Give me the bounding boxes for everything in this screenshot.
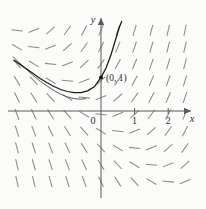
- slope-segment: [129, 129, 140, 133]
- slope-segment: [16, 159, 19, 170]
- slope-segment: [163, 181, 174, 182]
- slope-segment: [28, 47, 39, 48]
- slope-segment: [149, 93, 154, 103]
- slope-segment: [80, 127, 88, 135]
- axes: [8, 18, 191, 198]
- slope-segment: [163, 163, 174, 167]
- direction-field-figure: x y (0, 1) 012: [0, 0, 206, 209]
- slope-segment: [65, 143, 70, 153]
- slope-segment: [45, 63, 56, 64]
- slope-segment: [166, 75, 170, 86]
- slope-segment: [167, 42, 170, 53]
- slope-segment: [115, 177, 121, 187]
- y-axis-label: y: [90, 14, 96, 25]
- slope-segment: [32, 159, 35, 170]
- slope-segment: [133, 25, 136, 36]
- slope-segment: [15, 142, 18, 153]
- slope-segment: [181, 161, 190, 169]
- slope-segment: [182, 126, 187, 136]
- slope-segment: [46, 27, 55, 35]
- slope-segment: [150, 25, 153, 36]
- slope-segment: [166, 92, 170, 103]
- slope-segment: [81, 43, 88, 52]
- slope-segment: [82, 25, 87, 35]
- slope-segment: [12, 44, 22, 50]
- slope-segment: [114, 94, 123, 102]
- slope-segment: [184, 42, 187, 53]
- slope-segment: [49, 143, 53, 154]
- slope-segment: [150, 59, 154, 70]
- slope-segment: [114, 161, 122, 169]
- slope-segment: [49, 176, 52, 187]
- slope-segment: [31, 93, 37, 103]
- slope-segment: [64, 26, 71, 35]
- slope-segment: [183, 75, 186, 86]
- slope-segment: [80, 60, 89, 68]
- slope-segment: [45, 45, 56, 49]
- slope-segment: [62, 62, 73, 66]
- slope-segment: [167, 58, 170, 69]
- slope-segment: [15, 126, 19, 137]
- slope-segment: [132, 59, 136, 70]
- x-tick-label: 0: [91, 115, 96, 126]
- slope-segment: [62, 80, 73, 81]
- slope-segment: [14, 76, 20, 86]
- slope-segment: [149, 75, 153, 86]
- slope-segment: [11, 30, 22, 31]
- slope-segment: [79, 97, 90, 98]
- slope-segment: [165, 127, 172, 136]
- plot-canvas: x y (0, 1) 012: [0, 0, 206, 209]
- slope-segment: [29, 28, 40, 32]
- x-tick-label: 2: [166, 115, 171, 126]
- slope-segment: [184, 25, 186, 36]
- slope-segment: [66, 176, 70, 187]
- slope-segment: [167, 25, 170, 36]
- slope-segment: [129, 147, 140, 148]
- slope-segment: [79, 111, 89, 117]
- initial-point-label: (0, 1): [106, 73, 127, 84]
- slope-segment: [49, 159, 53, 170]
- slope-segment: [64, 126, 70, 136]
- slope-segment: [32, 143, 36, 154]
- x-axis-label: x: [189, 113, 195, 124]
- slope-segment: [15, 92, 20, 102]
- slope-segment: [150, 42, 153, 53]
- slope-segment: [32, 126, 36, 137]
- slope-segment: [182, 143, 189, 152]
- slope-segment: [115, 59, 120, 69]
- slope-segment: [131, 93, 138, 102]
- initial-point-dot: [99, 76, 103, 80]
- slope-segment: [16, 176, 18, 187]
- slope-segment: [147, 179, 157, 185]
- slope-segment: [112, 131, 123, 132]
- slope-segment: [48, 126, 53, 136]
- slope-segment: [184, 58, 187, 69]
- slope-segment: [79, 79, 90, 83]
- y-axis-arrowhead: [98, 18, 104, 25]
- slope-segment: [116, 42, 120, 53]
- slope-segment: [32, 176, 35, 187]
- slope-segment: [164, 144, 173, 152]
- slope-segment: [131, 177, 139, 185]
- slope-segment: [81, 143, 87, 153]
- slope-segment: [65, 159, 69, 170]
- slope-segment: [132, 76, 137, 86]
- slope-segment: [82, 160, 87, 170]
- slope-segment: [29, 61, 39, 67]
- slope-segment: [183, 92, 187, 103]
- slope-segment: [130, 162, 140, 168]
- tick-labels: 012: [91, 115, 171, 126]
- slope-segment: [82, 176, 86, 187]
- x-tick-label: 1: [132, 115, 137, 126]
- slope-segment: [47, 93, 55, 101]
- slope-segment: [146, 146, 157, 150]
- slope-segment: [113, 112, 124, 116]
- slope-segment: [113, 145, 123, 151]
- slope-segment: [146, 164, 157, 165]
- slope-segment: [180, 179, 191, 183]
- slope-segment: [133, 42, 137, 53]
- slope-segment: [63, 43, 72, 51]
- slope-segment: [147, 127, 156, 135]
